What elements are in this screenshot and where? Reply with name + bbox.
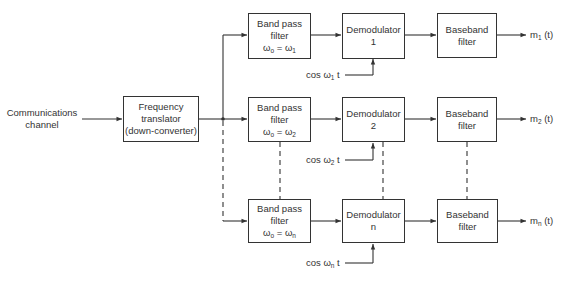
baseband-filter-n: Baseband filter [437, 199, 498, 243]
demodulator-n: Demodulator n [342, 199, 405, 243]
carrier-n-label: cos ωn t [306, 257, 340, 269]
bandpass-filter-2: Band pass filter ωo = ω2 [248, 97, 311, 142]
junction-dot [221, 117, 225, 121]
frequency-translator-block: Frequency translator (down-converter) [123, 96, 199, 142]
baseband-filter-1: Baseband filter [437, 13, 497, 58]
baseband-filter-2: Baseband filter [437, 97, 497, 142]
output-m2-label: m2 (t) [530, 113, 553, 125]
carrier-2-label: cos ω2 t [306, 154, 340, 166]
demodulator-2: Demodulator 2 [342, 97, 405, 142]
bandpass-filter-1: Band pass filter ωo = ω1 [248, 13, 311, 59]
input-label: Communications channel [4, 107, 80, 131]
bandpass-filter-n: Band pass filter ωo = ωn [248, 199, 311, 243]
output-m1-label: m1 (t) [530, 29, 553, 41]
carrier-1-label: cos ω1 t [306, 69, 340, 81]
output-mn-label: mn (t) [530, 215, 553, 227]
demodulator-1: Demodulator 1 [342, 13, 405, 59]
